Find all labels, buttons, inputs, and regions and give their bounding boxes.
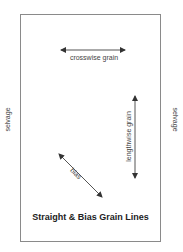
selvage-right-label: selvage [172, 105, 179, 135]
diagram-title: Straight & Bias Grain Lines [20, 212, 161, 222]
crosswise-grain-label: crosswise grain [60, 54, 128, 61]
lengthwise-grain-label: lengthwise grain [125, 97, 132, 177]
selvage-left-label: selvage [4, 105, 11, 135]
